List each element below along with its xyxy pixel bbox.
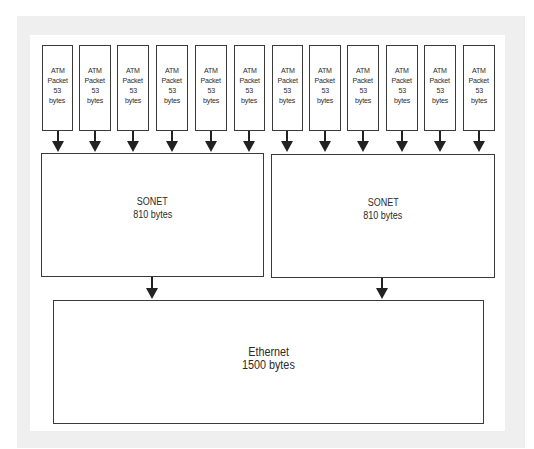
atm-label: ATM <box>88 66 102 76</box>
atm-unit: bytes <box>164 96 180 106</box>
atm-size: 53 <box>321 86 328 96</box>
arrow-down-icon <box>146 277 158 300</box>
atm-unit: bytes <box>242 96 258 106</box>
arrow-down-icon <box>319 131 331 153</box>
atm-size: 53 <box>359 86 366 96</box>
atm-label: ATM <box>318 66 332 76</box>
arrow-down-icon <box>281 131 293 153</box>
atm-packet-box: ATM Packet 53 bytes <box>347 45 379 131</box>
atm-packet-box: ATM Packet 53 bytes <box>386 45 418 131</box>
atm-packet-box: ATM Packet 53 bytes <box>309 45 341 131</box>
atm-label: ATM <box>51 66 65 76</box>
arrow-down-icon <box>127 131 139 153</box>
atm-unit: bytes <box>355 96 371 106</box>
atm-packet-box: ATM Packet 53 bytes <box>79 45 111 131</box>
arrow-down-icon <box>396 131 408 153</box>
atm-label: ATM <box>356 66 370 76</box>
sonet-title: SONET <box>367 196 398 209</box>
ethernet-frame-box: Ethernet 1500 bytes <box>53 300 484 424</box>
ethernet-size: 1500 bytes <box>242 359 295 372</box>
sonet-size: 810 bytes <box>133 208 172 221</box>
atm-packet-box: ATM Packet 53 bytes <box>234 45 265 131</box>
arrow-down-icon <box>473 131 485 153</box>
atm-size: 53 <box>436 86 443 96</box>
atm-unit: bytes <box>125 96 141 106</box>
atm-label: Packet <box>315 76 335 86</box>
atm-size: 53 <box>207 86 214 96</box>
arrow-down-icon <box>376 278 388 300</box>
atm-label: ATM <box>433 66 447 76</box>
atm-packet-box: ATM Packet 53 bytes <box>195 45 227 131</box>
atm-size: 53 <box>54 86 61 96</box>
atm-label: Packet <box>47 76 67 86</box>
atm-unit: bytes <box>280 96 296 106</box>
atm-label: ATM <box>281 66 295 76</box>
atm-packet-box: ATM Packet 53 bytes <box>117 45 149 131</box>
atm-label: ATM <box>395 66 409 76</box>
arrow-down-icon <box>166 131 178 153</box>
sonet-size: 810 bytes <box>363 209 402 222</box>
atm-label: Packet <box>392 76 412 86</box>
atm-label: ATM <box>472 66 486 76</box>
atm-packet-box: ATM Packet 53 bytes <box>272 45 303 131</box>
atm-size: 53 <box>168 86 175 96</box>
atm-label: Packet <box>469 76 489 86</box>
arrow-down-icon <box>205 131 217 153</box>
atm-unit: bytes <box>203 96 219 106</box>
atm-size: 53 <box>91 86 98 96</box>
atm-label: Packet <box>353 76 373 86</box>
atm-packet-box: ATM Packet 53 bytes <box>463 45 495 131</box>
atm-packet-box: ATM Packet 53 bytes <box>424 45 456 131</box>
atm-size: 53 <box>398 86 405 96</box>
atm-label: ATM <box>204 66 218 76</box>
atm-unit: bytes <box>471 96 487 106</box>
atm-unit: bytes <box>87 96 103 106</box>
atm-packet-box: ATM Packet 53 bytes <box>42 45 73 131</box>
atm-label: Packet <box>277 76 297 86</box>
arrow-down-icon <box>357 131 369 153</box>
atm-label: Packet <box>162 76 182 86</box>
atm-unit: bytes <box>50 96 66 106</box>
atm-label: Packet <box>239 76 259 86</box>
arrow-down-icon <box>434 131 446 153</box>
atm-size: 53 <box>475 86 482 96</box>
arrow-down-icon <box>243 131 255 153</box>
atm-unit: bytes <box>394 96 410 106</box>
atm-packet-box: ATM Packet 53 bytes <box>156 45 188 131</box>
arrow-down-icon <box>89 131 101 153</box>
atm-unit: bytes <box>317 96 333 106</box>
atm-label: Packet <box>123 76 143 86</box>
atm-label: ATM <box>126 66 140 76</box>
arrow-down-icon <box>52 131 64 153</box>
sonet-frame-box: SONET 810 bytes <box>271 154 495 278</box>
atm-size: 53 <box>284 86 291 96</box>
sonet-frame-box: SONET 810 bytes <box>41 153 264 277</box>
atm-size: 53 <box>129 86 136 96</box>
atm-size: 53 <box>246 86 253 96</box>
atm-label: ATM <box>243 66 257 76</box>
atm-label: ATM <box>165 66 179 76</box>
atm-unit: bytes <box>432 96 448 106</box>
sonet-title: SONET <box>137 195 168 208</box>
atm-label: Packet <box>430 76 450 86</box>
atm-label: Packet <box>201 76 221 86</box>
atm-label: Packet <box>85 76 105 86</box>
